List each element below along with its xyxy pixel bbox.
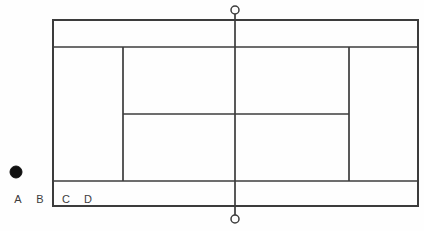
position-label-a: A [14,193,22,205]
ball-marker-icon [10,166,22,178]
position-label-c: C [62,193,70,205]
court-lines-group [53,10,418,219]
tennis-court-diagram: ABCD [0,0,424,231]
position-label-d: D [84,193,92,205]
ball-marker-group [10,166,22,178]
position-label-b: B [36,193,43,205]
net-post-bottom-icon [231,215,239,223]
net-post-top-icon [231,6,239,14]
court-diagram-canvas: ABCD [0,0,424,231]
